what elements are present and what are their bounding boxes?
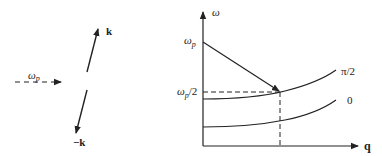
y-axis-label: ω (212, 6, 220, 18)
wave-k-label: k (106, 25, 113, 37)
omega-p-half-label: ωp/2 (177, 85, 197, 100)
wave-k-arrow (87, 29, 98, 72)
curve-zero-label: 0 (347, 94, 353, 106)
right-panel: ω q ωp ωp/2 π/2 0 (177, 6, 371, 153)
omega-p-label: ωp (184, 34, 196, 49)
parametric-resonance-diagram: ωp k −k ω q ωp ωp/2 π/2 0 (0, 0, 382, 156)
curve-zero (203, 100, 336, 127)
wave-minus-k-label: −k (73, 136, 86, 148)
curve-pi-over-2-label: π/2 (341, 65, 355, 77)
pump-label: ωp (28, 69, 40, 83)
x-axis-label: q (364, 139, 371, 153)
decay-arrow (203, 42, 279, 91)
left-panel: ωp k −k (15, 25, 113, 148)
wave-minus-k-arrow (76, 90, 87, 133)
